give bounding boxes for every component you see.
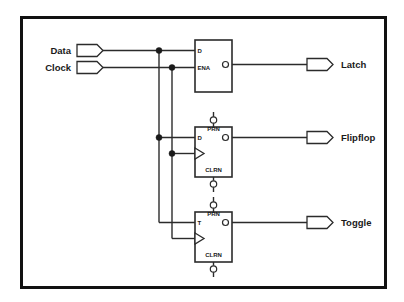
latch-output-pin[interactable] <box>307 59 333 71</box>
flipflop-output-bubble <box>223 135 229 141</box>
schematic-diagram: Data Clock D ENA Latc <box>0 0 404 302</box>
flipflop-port-prn-label: PRN <box>207 126 220 132</box>
data-input-label: Data <box>50 45 71 56</box>
data-input-pin[interactable] <box>77 45 103 57</box>
toggle-clrn-bubble <box>210 266 216 272</box>
flipflop-clrn-bubble <box>210 181 216 187</box>
toggle-port-t-label: T <box>198 220 202 226</box>
clock-input-pin[interactable] <box>77 62 103 74</box>
toggle-output-bubble <box>223 220 229 226</box>
flipflop-prn-bubble <box>210 117 216 123</box>
flipflop-port-clrn-label: CLRN <box>205 167 222 173</box>
flipflop-output-pin-shape <box>307 132 333 144</box>
schematic-canvas: Data Clock D ENA Latc <box>0 0 404 302</box>
junction-clock-flipflop <box>169 151 175 157</box>
junction-data-latch <box>156 48 162 54</box>
clock-input-label: Clock <box>45 62 72 73</box>
flipflop-output-pin[interactable] <box>307 132 333 144</box>
latch-port-ena-label: ENA <box>198 65 211 71</box>
clock-pin-shape <box>77 62 103 74</box>
toggle-prn-bubble <box>210 202 216 208</box>
latch-port-d-label: D <box>198 48 203 54</box>
flipflop-port-d-label: D <box>198 135 203 141</box>
latch-output-bubble <box>223 62 229 68</box>
junction-data-flipflop <box>156 135 162 141</box>
junction-clock-latch <box>169 65 175 71</box>
toggle-port-clrn-label: CLRN <box>205 252 222 258</box>
toggle-output-pin[interactable] <box>307 217 333 229</box>
latch-output-label: Latch <box>341 59 367 70</box>
flipflop-output-label: Flipflop <box>341 132 375 143</box>
toggle-port-prn-label: PRN <box>207 211 220 217</box>
latch-output-pin-shape <box>307 59 333 71</box>
toggle-output-pin-shape <box>307 217 333 229</box>
toggle-output-label: Toggle <box>341 217 371 228</box>
data-pin-shape <box>77 45 103 57</box>
latch-block[interactable]: D ENA <box>195 40 232 92</box>
